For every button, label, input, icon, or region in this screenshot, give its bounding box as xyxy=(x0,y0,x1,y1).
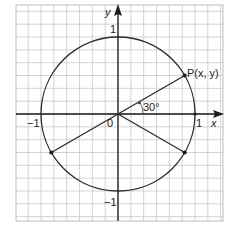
unit-circle-diagram: y x 0 −1 1 1 −1 P(x, y) 30° xyxy=(0,0,234,232)
point-P-label: P(x, y) xyxy=(187,67,219,79)
y-tick-neg-1: −1 xyxy=(104,196,117,208)
y-tick-1: 1 xyxy=(110,23,116,35)
x-tick-neg-1: −1 xyxy=(27,117,40,129)
angle-label: 30° xyxy=(143,101,160,113)
radius-to-lower-right xyxy=(118,114,185,153)
point-lower-right xyxy=(183,151,187,155)
y-axis-label: y xyxy=(104,6,112,18)
origin-label: 0 xyxy=(107,117,113,129)
x-axis-label: x xyxy=(210,117,217,129)
point-lower-left xyxy=(49,151,53,155)
point-x-intercept xyxy=(193,112,196,115)
x-tick-1: 1 xyxy=(196,117,202,129)
